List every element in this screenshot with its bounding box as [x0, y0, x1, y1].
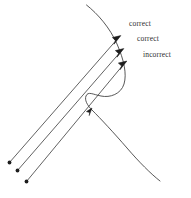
- ray-1-line: [10, 37, 120, 163]
- ray-3-arrowhead: [118, 61, 126, 70]
- ray-1-origin-dot: [8, 161, 12, 165]
- crossing-arrowhead: [86, 108, 92, 116]
- label-correct-middle: correct: [137, 34, 159, 43]
- diagram-svg: [0, 0, 191, 198]
- ray-2-line: [18, 50, 123, 171]
- curve-group: [86, 5, 160, 181]
- label-correct-upper: correct: [129, 19, 151, 28]
- rays-group: [10, 37, 126, 182]
- ray-3-line: [27, 62, 126, 182]
- figure-canvas: correct correct incorrect: [0, 0, 191, 198]
- ray-3-origin-dot: [25, 180, 29, 184]
- ray-2-origin-dot: [16, 169, 20, 173]
- arrowheads-group: [112, 36, 126, 70]
- label-incorrect: incorrect: [143, 50, 171, 59]
- s-shaped-curve: [86, 5, 160, 181]
- curve-crossing-marker: [86, 108, 92, 116]
- ray-origin-dots: [8, 161, 29, 184]
